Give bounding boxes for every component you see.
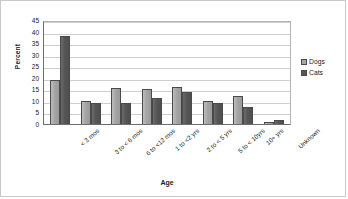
y-tick-label: 5 xyxy=(19,109,39,116)
bar-cats[interactable] xyxy=(182,92,192,124)
bar-dogs[interactable] xyxy=(172,87,182,124)
bar-group xyxy=(203,22,223,124)
bar-group xyxy=(142,22,162,124)
bar-cats[interactable] xyxy=(121,103,131,124)
bar-dogs[interactable] xyxy=(142,89,152,124)
bar-dogs[interactable] xyxy=(111,88,121,124)
x-axis-title: Age xyxy=(43,179,291,186)
chart-legend: DogsCats xyxy=(301,58,345,80)
bar-dogs[interactable] xyxy=(233,96,243,124)
y-tick-label: 15 xyxy=(19,86,39,93)
legend-swatch-icon xyxy=(301,70,307,76)
bar-group xyxy=(172,22,192,124)
legend-item-dogs[interactable]: Dogs xyxy=(301,58,345,66)
bar-group xyxy=(50,22,70,124)
bar-group xyxy=(81,22,101,124)
x-tick-label: 3 to < 6 mos xyxy=(112,127,143,156)
y-axis-tick-labels: 454035302520151050 xyxy=(19,17,39,125)
x-axis-tick-labels: < 3 mos3 to < 6 mos6 to <12 mos1 to <2 y… xyxy=(43,127,291,169)
bar-group xyxy=(111,22,131,124)
y-tick-label: 30 xyxy=(19,52,39,59)
bar-group xyxy=(233,22,253,124)
x-tick-label: 5 to < 10yrs xyxy=(236,127,265,154)
y-tick-label: 10 xyxy=(19,98,39,105)
y-tick-label: 45 xyxy=(19,17,39,24)
x-tick-label: < 3 mos xyxy=(78,127,99,147)
bar-cats[interactable] xyxy=(213,103,223,124)
x-tick-label: 10+ yrs xyxy=(264,127,284,146)
bar-dogs[interactable] xyxy=(81,101,91,124)
y-tick-label: 0 xyxy=(19,121,39,128)
bar-groups xyxy=(44,22,290,124)
chart-container: Percent 454035302520151050 < 3 mos3 to <… xyxy=(0,0,346,197)
bar-cats[interactable] xyxy=(274,120,284,124)
bar-dogs[interactable] xyxy=(50,80,60,124)
plot-area xyxy=(43,21,291,125)
bar-group xyxy=(264,22,284,124)
bar-cats[interactable] xyxy=(152,98,162,124)
y-tick-label: 20 xyxy=(19,75,39,82)
x-tick-label: Unknown xyxy=(296,127,320,150)
y-tick-label: 40 xyxy=(19,29,39,36)
x-tick-label: 2 to < 5 yrs xyxy=(205,127,233,153)
legend-label: Cats xyxy=(309,69,323,77)
y-tick-label: 25 xyxy=(19,63,39,70)
bar-dogs[interactable] xyxy=(264,122,274,124)
bar-cats[interactable] xyxy=(243,107,253,124)
legend-item-cats[interactable]: Cats xyxy=(301,69,345,77)
bar-cats[interactable] xyxy=(91,103,101,124)
x-tick-label: 6 to <12 mos xyxy=(144,127,176,157)
x-tick-label: 1 to <2 yrs xyxy=(173,127,200,152)
y-tick-label: 35 xyxy=(19,40,39,47)
bar-cats[interactable] xyxy=(60,36,70,124)
legend-label: Dogs xyxy=(309,58,325,66)
legend-swatch-icon xyxy=(301,59,307,65)
bar-dogs[interactable] xyxy=(203,101,213,124)
